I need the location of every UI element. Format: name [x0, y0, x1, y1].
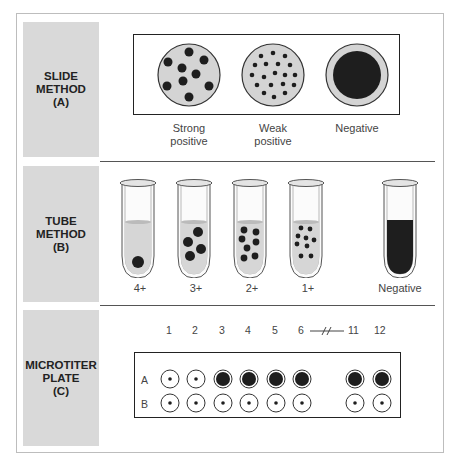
caption-slide-negative: Negative — [322, 122, 392, 135]
tube-illustrations — [110, 178, 440, 278]
tube-4plus-icon — [120, 180, 156, 279]
caption-1plus: 1+ — [290, 282, 326, 295]
well-positive-icon — [346, 370, 364, 388]
well-positive-icon — [293, 370, 311, 388]
section-c-label: MICROTITER PLATE (C) — [25, 359, 97, 398]
slide-negative-icon — [326, 44, 388, 106]
column-header: 11 — [348, 324, 359, 336]
tube-2plus-icon — [232, 180, 268, 279]
section-b-label-panel: TUBE METHOD (B) — [23, 166, 99, 302]
slide-illustrations — [133, 34, 400, 115]
well-negative-icon — [187, 394, 205, 412]
caption-weak-positive: Weak positive — [243, 122, 303, 148]
caption-tube-negative: Negative — [370, 282, 430, 295]
section-a-label: SLIDE METHOD (A) — [36, 70, 86, 109]
section-b-label: TUBE METHOD (B) — [36, 215, 86, 254]
well-positive-icon — [214, 370, 232, 388]
well-positive-icon — [267, 370, 285, 388]
well-negative-icon — [161, 394, 179, 412]
column-break-icon — [309, 325, 345, 337]
column-header: 3 — [219, 324, 225, 336]
well-positive-icon — [240, 370, 258, 388]
tube-negative-icon — [382, 180, 418, 279]
column-header: 6 — [298, 324, 304, 336]
section-c-label-panel: MICROTITER PLATE (C) — [23, 310, 99, 446]
caption-2plus: 2+ — [234, 282, 270, 295]
column-header: 5 — [272, 324, 278, 336]
row-b-wells — [161, 394, 391, 412]
well-negative-icon — [161, 370, 179, 388]
cropped-caption-remnant — [0, 462, 460, 470]
section-a-label-panel: SLIDE METHOD (A) — [23, 22, 99, 157]
section-divider — [100, 161, 435, 162]
column-header: 2 — [192, 324, 198, 336]
well-negative-icon — [240, 394, 258, 412]
well-negative-icon — [346, 394, 364, 412]
slide-weak-positive-icon — [242, 44, 304, 106]
slide-strong-positive-icon — [158, 44, 220, 106]
row-a-wells — [161, 370, 391, 388]
column-header: 1 — [166, 324, 172, 336]
caption-strong-positive: Strong positive — [159, 122, 219, 148]
well-negative-icon — [373, 394, 391, 412]
well-negative-icon — [187, 370, 205, 388]
tube-1plus-icon — [288, 180, 324, 279]
column-header: 4 — [245, 324, 251, 336]
microtiter-wells — [134, 352, 401, 418]
well-negative-icon — [293, 394, 311, 412]
caption-3plus: 3+ — [178, 282, 214, 295]
caption-4plus: 4+ — [122, 282, 158, 295]
well-negative-icon — [214, 394, 232, 412]
column-header: 12 — [374, 324, 386, 336]
well-negative-icon — [267, 394, 285, 412]
well-positive-icon — [373, 370, 391, 388]
section-divider — [100, 305, 435, 306]
tube-3plus-icon — [176, 180, 212, 279]
